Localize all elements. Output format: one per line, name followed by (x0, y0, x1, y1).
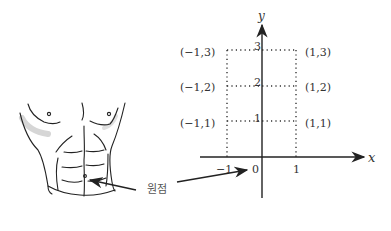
y-tick-1: 1 (254, 112, 261, 125)
ab-line-1-left (64, 151, 82, 153)
x-axis-label: x (368, 150, 376, 165)
ab-line-2-right (86, 164, 104, 166)
left-inner-line (57, 158, 59, 190)
x-tick-neg1: −1 (216, 163, 232, 176)
origin-label: 원점 (147, 183, 167, 196)
torso-illustration (20, 103, 125, 196)
right-inner-line (106, 154, 108, 186)
ab-line-1-right (86, 150, 104, 152)
point-label-1-1: (1,1) (305, 117, 331, 130)
x-tick-0: 0 (252, 163, 259, 176)
point-label-neg1-1: (−1,1) (180, 117, 215, 130)
y-tick-3: 3 (254, 40, 261, 53)
left-nipple (47, 112, 50, 115)
right-nipple (107, 112, 110, 115)
navel (84, 175, 87, 178)
point-label-1-3: (1,3) (305, 46, 331, 59)
arrow-to-origin (177, 170, 247, 182)
coordinate-diagram: 원점 x y −1 0 1 1 2 3 (−1,3) (−1,2) (−1,1)… (0, 0, 391, 231)
left-oblique-upper (56, 136, 72, 152)
left-pectoral (28, 104, 60, 124)
ab-line-3-left (62, 180, 82, 182)
arrow-to-navel (90, 180, 136, 190)
y-axis-label: y (257, 9, 265, 23)
right-oblique-upper (94, 134, 106, 150)
x-tick-1: 1 (293, 163, 300, 176)
ab-line-2-left (62, 166, 82, 168)
point-label-1-2: (1,2) (305, 81, 331, 94)
sternum-line (82, 103, 84, 120)
point-label-neg1-3: (−1,3) (180, 46, 215, 59)
point-label-neg1-2: (−1,2) (180, 81, 215, 94)
y-tick-2: 2 (254, 76, 261, 89)
